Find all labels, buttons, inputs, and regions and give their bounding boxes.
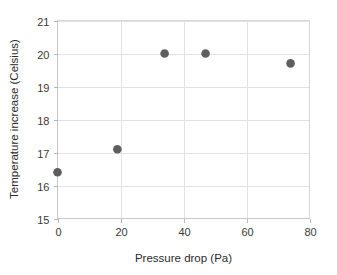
data-point-4 [201, 49, 210, 58]
x-tick-label-80: 80 [304, 226, 316, 238]
scatter-chart: 15161718192021 020406080 Pressure drop (… [0, 0, 337, 275]
x-tick-label-60: 60 [241, 226, 253, 238]
data-point-5 [286, 59, 295, 68]
y-tick-label-18: 18 [37, 115, 49, 127]
y-axis-title: Temperature increase (Celsius) [8, 39, 20, 199]
y-tick-label-19: 19 [37, 82, 49, 94]
x-axis-title: Pressure drop (Pa) [135, 252, 232, 264]
y-tick-label-17: 17 [37, 148, 49, 160]
x-tick-label-40: 40 [178, 226, 190, 238]
x-tick-label-0: 0 [55, 226, 61, 238]
chart-background [0, 0, 337, 275]
data-point-1 [53, 168, 62, 177]
y-tick-label-20: 20 [37, 49, 49, 61]
chart-canvas: 15161718192021 020406080 Pressure drop (… [0, 0, 337, 275]
data-point-2 [113, 145, 122, 154]
y-tick-label-21: 21 [37, 16, 49, 28]
y-tick-label-16: 16 [37, 181, 49, 193]
data-point-3 [160, 49, 169, 58]
x-tick-label-20: 20 [115, 226, 127, 238]
y-tick-label-15: 15 [37, 214, 49, 226]
